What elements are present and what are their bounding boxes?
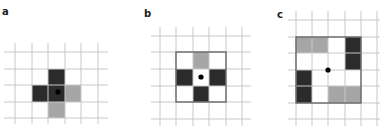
dark-cell	[193, 86, 209, 102]
panel-label-b: b	[144, 9, 151, 19]
gray-cell	[48, 102, 65, 118]
panel-label-a: a	[2, 7, 9, 17]
center-dot	[198, 74, 203, 79]
dark-cell	[48, 69, 65, 85]
gray-cell	[65, 85, 81, 102]
dark-cell	[209, 69, 226, 86]
center-dot	[325, 67, 330, 72]
figure-canvas	[0, 0, 380, 129]
dark-cell	[176, 69, 193, 86]
center-dot	[55, 89, 60, 94]
panel-label-c: c	[277, 10, 283, 20]
gray-cell	[193, 52, 209, 69]
